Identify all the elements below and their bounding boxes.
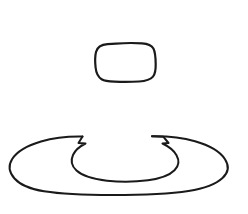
sketch-drawing: Hand-drawn sketch of a rounded rectangle… (0, 0, 248, 214)
sketch-canvas: Hand-drawn sketch of a rounded rectangle… (0, 0, 248, 214)
